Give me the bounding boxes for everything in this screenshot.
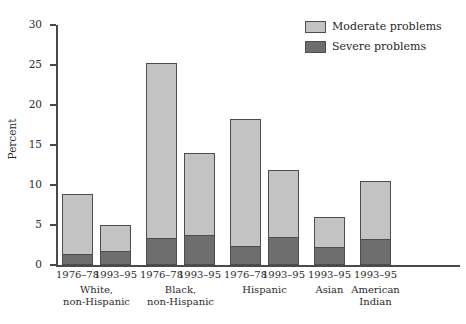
bar — [146, 63, 177, 265]
bar-segment-severe — [146, 238, 177, 265]
bar-segment-moderate — [100, 225, 131, 251]
x-axis-tick-label: 1993–95 — [343, 269, 409, 281]
bar-segment-moderate — [62, 194, 93, 254]
bar-segment-moderate — [360, 181, 391, 239]
bar-segment-moderate — [230, 119, 261, 245]
bar-segment-severe — [100, 251, 131, 265]
bar — [360, 181, 391, 265]
y-axis-tick-mark — [50, 24, 56, 26]
group-label-line: non-Hispanic — [121, 296, 241, 308]
y-axis-tick-mark — [50, 224, 56, 226]
y-axis-tick-label: 30 — [16, 19, 42, 29]
legend: Moderate problems Severe problems — [305, 18, 442, 58]
y-axis-line — [56, 25, 58, 266]
bar-segment-severe — [314, 247, 345, 265]
legend-item-severe: Severe problems — [305, 38, 442, 55]
bar — [62, 194, 93, 265]
y-axis-tick: 25 — [0, 64, 56, 65]
bar-segment-moderate — [184, 153, 215, 235]
bar — [184, 153, 215, 265]
bar-chart: Percent 302520151050 1976–781993–951976–… — [0, 0, 466, 324]
bar-segment-moderate — [146, 63, 177, 238]
y-axis-tick-mark — [50, 64, 56, 66]
bar-segment-severe — [184, 235, 215, 265]
bar — [100, 225, 131, 265]
x-axis-line — [56, 265, 460, 267]
x-axis-group-label: AmericanIndian — [316, 284, 436, 307]
y-axis-tick-label: 0 — [16, 259, 42, 269]
legend-label-moderate: Moderate problems — [332, 20, 442, 33]
y-axis-tick-mark — [50, 264, 56, 266]
y-axis-tick-mark — [50, 104, 56, 106]
y-axis-tick-mark — [50, 184, 56, 186]
bar-segment-moderate — [314, 217, 345, 247]
y-axis-tick-mark — [50, 144, 56, 146]
legend-label-severe: Severe problems — [332, 40, 426, 53]
bar — [230, 119, 261, 265]
bar-segment-severe — [360, 239, 391, 265]
bar — [268, 170, 299, 265]
bar-segment-severe — [230, 246, 261, 265]
y-axis-tick-label: 25 — [16, 59, 42, 69]
y-axis-tick: 5 — [0, 224, 56, 225]
y-axis-tick-label: 5 — [16, 219, 42, 229]
y-axis-tick-label: 20 — [16, 99, 42, 109]
y-axis-tick-label: 10 — [16, 179, 42, 189]
y-axis-tick: 15 — [0, 144, 56, 145]
bar-segment-moderate — [268, 170, 299, 237]
bar-segment-severe — [62, 254, 93, 265]
y-axis-tick: 0 — [0, 264, 56, 265]
legend-item-moderate: Moderate problems — [305, 18, 442, 35]
legend-swatch-moderate — [305, 21, 326, 33]
legend-swatch-severe — [305, 41, 326, 53]
group-label-line: American — [316, 284, 436, 296]
group-label-line: Indian — [316, 296, 436, 308]
y-axis-tick: 10 — [0, 184, 56, 185]
y-axis-tick-label: 15 — [16, 139, 42, 149]
y-axis-tick: 30 — [0, 24, 56, 25]
y-axis-tick: 20 — [0, 104, 56, 105]
bar — [314, 217, 345, 265]
bar-segment-severe — [268, 237, 299, 265]
